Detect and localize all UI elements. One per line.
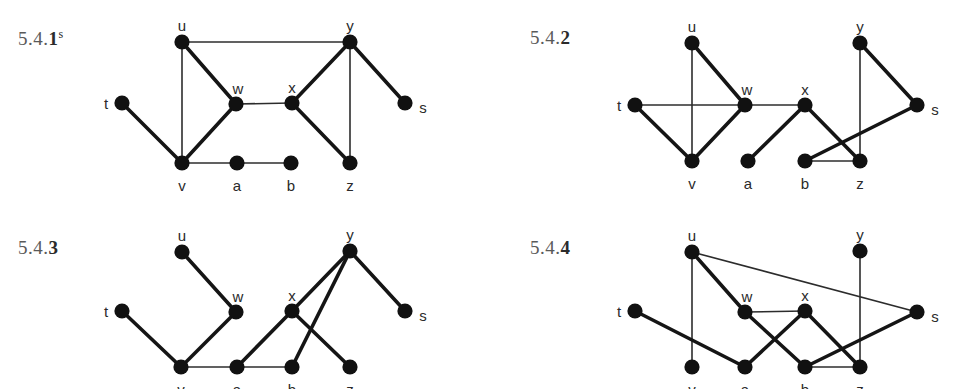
node-y[interactable] <box>852 35 867 50</box>
edge-b-y <box>292 251 350 367</box>
node-label-b: b <box>801 381 809 389</box>
node-b[interactable] <box>284 359 299 374</box>
edge-b-s <box>805 105 917 161</box>
node-s[interactable] <box>397 95 412 110</box>
node-a[interactable] <box>229 359 244 374</box>
node-label-s: s <box>931 101 939 118</box>
node-label-s: s <box>931 308 939 325</box>
node-z[interactable] <box>342 155 357 170</box>
node-label-z: z <box>346 381 354 389</box>
node-x[interactable] <box>284 303 299 318</box>
node-label-v: v <box>688 381 696 389</box>
edge-u-w <box>692 43 745 105</box>
figure-label-number: 2 <box>561 27 571 48</box>
edge-w-v <box>182 104 236 163</box>
node-label-x: x <box>288 79 296 96</box>
node-a[interactable] <box>737 359 752 374</box>
node-label-b: b <box>287 177 295 194</box>
node-label-x: x <box>288 287 296 304</box>
figure-label-fig-5-4-4: 5.4.4 <box>530 237 571 259</box>
figure-fig-5-4-4: uytwxsvabz <box>617 226 939 389</box>
figure-label-fig-5-4-3: 5.4.3 <box>18 237 59 259</box>
node-label-w: w <box>741 81 753 98</box>
node-label-y: y <box>856 226 864 243</box>
figure-fig-5-4-1: uytwxsvabz <box>104 17 427 194</box>
node-y[interactable] <box>852 243 867 258</box>
node-label-z: z <box>346 177 354 194</box>
node-w[interactable] <box>228 304 243 319</box>
node-b[interactable] <box>797 359 812 374</box>
node-label-w: w <box>232 80 244 97</box>
node-w[interactable] <box>737 97 752 112</box>
figure-label-number: 1 <box>49 28 59 49</box>
edge-x-a <box>748 105 805 161</box>
node-w[interactable] <box>228 96 243 111</box>
edge-group <box>122 42 405 163</box>
node-label-t: t <box>617 303 622 320</box>
node-label-s: s <box>419 307 427 324</box>
figure-label-fig-5-4-1: 5.4.1s <box>18 27 64 50</box>
node-b[interactable] <box>797 153 812 168</box>
node-label-y: y <box>856 18 864 35</box>
node-v[interactable] <box>173 359 188 374</box>
node-v[interactable] <box>174 155 189 170</box>
edge-t-a <box>635 311 745 367</box>
node-a[interactable] <box>229 155 244 170</box>
edge-x-z <box>805 105 860 161</box>
node-z[interactable] <box>342 359 357 374</box>
node-v[interactable] <box>684 359 699 374</box>
node-u[interactable] <box>174 244 189 259</box>
node-s[interactable] <box>909 304 924 319</box>
node-a[interactable] <box>740 153 755 168</box>
node-t[interactable] <box>114 95 129 110</box>
node-label-y: y <box>346 226 354 243</box>
node-z[interactable] <box>852 153 867 168</box>
edge-w-x <box>236 103 292 104</box>
node-u[interactable] <box>684 35 699 50</box>
node-b[interactable] <box>283 155 298 170</box>
node-x[interactable] <box>797 303 812 318</box>
figure-label-prefix: 5.4. <box>530 237 561 258</box>
node-y[interactable] <box>342 34 357 49</box>
node-label-u: u <box>178 227 186 244</box>
node-group: uytwxsvabz <box>617 226 939 389</box>
node-t[interactable] <box>627 97 642 112</box>
node-label-w: w <box>741 288 753 305</box>
node-t[interactable] <box>627 303 642 318</box>
edge-t-v <box>635 105 692 161</box>
node-x[interactable] <box>797 97 812 112</box>
node-label-u: u <box>688 18 696 35</box>
edge-b-s <box>805 312 917 367</box>
node-label-a: a <box>233 381 242 389</box>
figure-label-fig-5-4-2: 5.4.2 <box>530 27 571 49</box>
figure-fig-5-4-3: uytwxsvabz <box>104 226 427 389</box>
edge-u-w <box>182 42 236 104</box>
node-label-a: a <box>741 381 750 389</box>
node-s[interactable] <box>909 97 924 112</box>
node-y[interactable] <box>342 243 357 258</box>
node-label-x: x <box>801 81 809 98</box>
node-label-y: y <box>346 17 354 34</box>
node-w[interactable] <box>737 304 752 319</box>
figure-label-number: 3 <box>49 237 59 258</box>
edge-x-z <box>292 311 350 367</box>
node-label-v: v <box>688 175 696 192</box>
node-label-w: w <box>232 288 244 305</box>
node-s[interactable] <box>397 303 412 318</box>
node-u[interactable] <box>174 34 189 49</box>
node-t[interactable] <box>114 303 129 318</box>
node-label-v: v <box>178 177 186 194</box>
edge-w-x <box>745 311 805 312</box>
figure-sheet: uytwxsvabzuytwxsvabzuytwxsvabzuytwxsvabz… <box>0 0 961 389</box>
edge-u-w <box>182 252 236 312</box>
edge-group <box>635 251 917 367</box>
figure-label-prefix: 5.4. <box>530 27 561 48</box>
figure-label-prefix: 5.4. <box>18 28 49 49</box>
node-label-b: b <box>288 381 296 389</box>
edge-x-z <box>292 103 350 163</box>
node-z[interactable] <box>852 359 867 374</box>
node-v[interactable] <box>684 153 699 168</box>
node-u[interactable] <box>684 244 699 259</box>
node-x[interactable] <box>284 95 299 110</box>
node-group: uytwxsvabz <box>104 17 427 194</box>
